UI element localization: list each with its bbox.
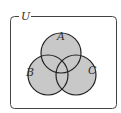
set-a-label: A: [56, 30, 65, 43]
universe-label: U: [21, 10, 31, 23]
venn-diagram: U A B C: [0, 0, 121, 113]
set-c-label: C: [88, 64, 97, 77]
set-b-label: B: [25, 66, 34, 79]
